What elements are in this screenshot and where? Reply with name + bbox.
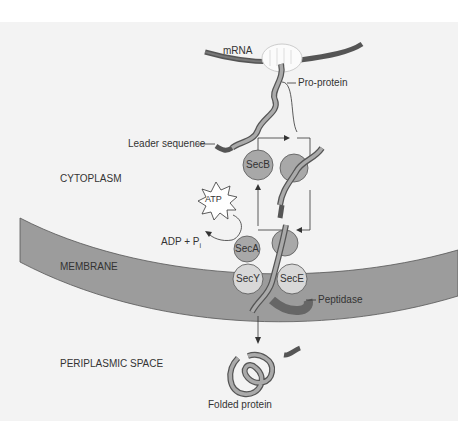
secb-label: SecB <box>243 159 273 170</box>
folded-protein-label: Folded protein <box>208 399 272 410</box>
cytoplasm-label: CYTOPLASM <box>60 173 122 184</box>
membrane-label: MEMBRANE <box>60 261 118 272</box>
adp-subscript: i <box>199 242 201 249</box>
seca-label: SecA <box>232 243 262 254</box>
sece-label: SecE <box>277 273 307 284</box>
sec-secretion-diagram: mRNA Pro-protein Leader sequence CYTOPLA… <box>0 0 458 421</box>
mrna-label: mRNA <box>223 45 252 56</box>
periplasmic-space-label: PERIPLASMIC SPACE <box>60 358 163 369</box>
adp-text: ADP + P <box>161 236 199 247</box>
leader-sequence-label: Leader sequence <box>128 138 205 149</box>
peptidase-label: Peptidase <box>318 294 362 305</box>
adp-label: ADP + Pi <box>161 236 201 249</box>
secy-label: SecY <box>233 273 263 284</box>
pro-protein-label: Pro-protein <box>298 77 347 88</box>
atp-label: ATP <box>205 194 222 204</box>
